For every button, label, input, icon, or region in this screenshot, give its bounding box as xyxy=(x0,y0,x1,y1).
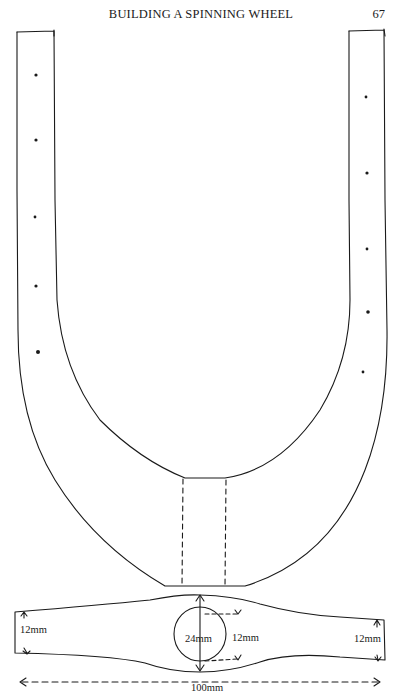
hole-dot xyxy=(365,171,368,174)
hole-dot xyxy=(365,96,368,99)
side-thickness-label: 12mm xyxy=(232,632,259,643)
hole-dot xyxy=(34,138,37,141)
hole-dot xyxy=(366,248,369,251)
hole-dot xyxy=(362,371,365,374)
hole-dot xyxy=(36,350,40,354)
right-arm-holes xyxy=(362,96,370,374)
hole-dot xyxy=(366,310,370,314)
flyer-outline xyxy=(17,29,387,586)
hole-dot xyxy=(34,73,37,76)
left-thickness-label: 12mm xyxy=(20,624,47,635)
left-arm-holes xyxy=(34,73,40,354)
hole-dot xyxy=(34,284,37,287)
hole-diameter-label: 24mm xyxy=(185,633,212,644)
overall-length-label: 100mm xyxy=(191,682,223,693)
flyer-diagram xyxy=(0,0,402,699)
hole-dot xyxy=(34,216,37,219)
right-thickness-label: 12mm xyxy=(354,633,381,644)
